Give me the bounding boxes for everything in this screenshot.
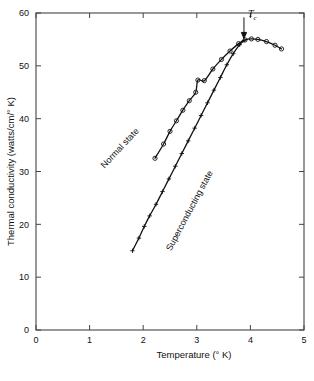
thermal-conductivity-chart: 0123450102030405060Temperature (° K)Ther… — [0, 0, 314, 381]
x-tick-label: 4 — [248, 335, 253, 345]
tc-annotation-label: Tc — [248, 8, 258, 22]
plot-frame — [36, 13, 304, 330]
x-tick-label: 1 — [87, 335, 92, 345]
y-tick-label: 20 — [19, 220, 29, 230]
x-tick-label: 2 — [141, 335, 146, 345]
x-axis-title: Temperature (° K) — [156, 349, 231, 360]
y-axis-title: Thermal conductivity (watts/cm/° K) — [5, 97, 16, 246]
y-tick-label: 0 — [24, 325, 29, 335]
curve-label-normal-state: Normal state — [99, 126, 141, 170]
chart-figure: 0123450102030405060Temperature (° K)Ther… — [0, 0, 314, 381]
y-tick-label: 40 — [19, 114, 29, 124]
curve-normal-state — [155, 39, 281, 158]
x-tick-label: 5 — [301, 335, 306, 345]
tc-subscript: c — [254, 14, 258, 22]
x-tick-label: 0 — [33, 335, 38, 345]
y-tick-label: 60 — [19, 8, 29, 18]
curve-label-superconducting-state: Superconducting state — [164, 169, 215, 253]
y-tick-label: 10 — [19, 272, 29, 282]
x-tick-label: 3 — [194, 335, 199, 345]
y-tick-label: 50 — [19, 61, 29, 71]
y-tick-label: 30 — [19, 167, 29, 177]
